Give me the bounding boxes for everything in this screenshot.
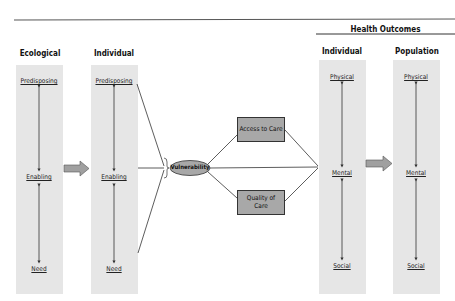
line-access-to-outcomes <box>285 130 318 166</box>
bracket <box>164 158 169 178</box>
label-outcomes-mental: Mental <box>332 169 352 177</box>
label-outcomes-physical: Physical <box>330 73 354 81</box>
block-arrow-ecological-to-individual <box>64 161 89 176</box>
diagram-arrows <box>0 0 455 301</box>
vulnerability-label: Vulnerability <box>170 163 210 170</box>
line-vulnerability-to-outcomes <box>210 167 318 168</box>
label-individual-predisposing: Predisposing <box>95 77 132 85</box>
label-population-social: Social <box>407 262 424 270</box>
label-individual-need: Need <box>106 265 121 273</box>
block-arrow-individual-to-population <box>366 156 392 171</box>
label-ecological-enabling: Enabling <box>26 173 51 181</box>
access-to-care-box: Access to Care <box>237 117 285 142</box>
line-predisposing-to-vulnerability <box>137 84 164 166</box>
label-individual-enabling: Enabling <box>101 173 126 181</box>
label-ecological-predisposing: Predisposing <box>20 77 57 85</box>
label-population-mental: Mental <box>406 169 426 177</box>
line-vulnerability-to-quality <box>208 172 237 198</box>
line-quality-to-outcomes <box>285 168 318 201</box>
quality-of-care-box: Quality of Care <box>237 190 285 215</box>
line-vulnerability-to-access <box>208 135 237 164</box>
line-need-to-vulnerability <box>138 170 164 253</box>
label-outcomes-social: Social <box>333 262 350 270</box>
label-ecological-need: Need <box>31 265 46 273</box>
label-population-physical: Physical <box>404 73 428 81</box>
